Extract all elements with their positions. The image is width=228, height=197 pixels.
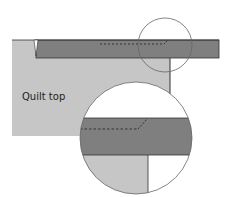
magnified-binding — [70, 118, 210, 155]
quilt-top-label: Quilt top — [22, 91, 65, 102]
quilt-binding-diagram: Quilt top — [0, 0, 228, 197]
magnified-quilt-top — [70, 155, 148, 197]
